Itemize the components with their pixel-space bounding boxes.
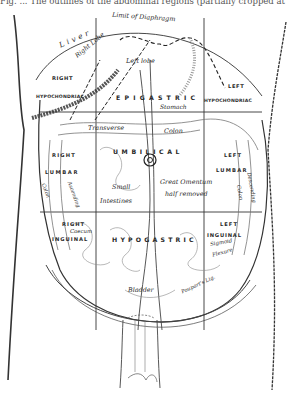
organ-label-stomach: Stomach — [160, 104, 187, 110]
organ-label-bladder: Bladder — [128, 287, 154, 293]
region-label-right-inguinal-1: RIGHT — [62, 222, 85, 227]
umbilicus-icon — [144, 154, 156, 166]
region-label-right-hypochondriac-2: HYPOCHONDRIAC — [36, 95, 84, 100]
organ-label-left-lobe: Left lobe — [126, 58, 155, 64]
region-label-left-hypochondriac-1: LEFT — [228, 84, 244, 89]
region-label-right-lumbar-1: RIGHT — [52, 153, 76, 158]
organ-label-transverse-colon-1: Transverse — [88, 125, 124, 131]
organ-label-great-omentum-1: Great Omentum — [160, 179, 212, 185]
region-label-left-hypochondriac-2: HYPOCHONDRIAC — [204, 99, 252, 104]
region-label-umbilical: UMBILICAL — [113, 149, 183, 155]
organ-label-transverse-colon-2: Colon — [164, 128, 183, 134]
region-label-epigastric: EPIGASTRIC — [116, 95, 199, 101]
region-label-right-lumbar-2: LUMBAR — [45, 170, 79, 175]
body-outline-right — [268, 22, 286, 390]
organ-label-small-intestines-1: Small — [112, 184, 130, 190]
region-label-left-lumbar-1: LEFT — [224, 153, 242, 158]
region-label-left-inguinal-1: LEFT — [220, 222, 238, 227]
poupart-ligament-line-2 — [52, 270, 256, 327]
lower-outline — [120, 320, 160, 388]
organ-label-small-intestines-2: Intestines — [100, 198, 132, 204]
organ-label-great-omentum-2: half removed — [165, 191, 208, 197]
body-outline-left — [8, 15, 24, 380]
organ-label-caecum: Caecum — [70, 229, 92, 234]
region-label-right-inguinal-2: INGUINAL — [52, 237, 88, 242]
region-label-right-hypochondriac-1: RIGHT — [52, 76, 73, 81]
region-label-hypogastric: HYPOGASTRIC — [112, 237, 197, 243]
left-lobe-shading — [180, 38, 195, 95]
region-label-left-lumbar-2: LUMBAR — [216, 168, 248, 173]
abdominal-regions-diagram: Fig. ... The outlines of the abdominal r… — [0, 0, 288, 395]
